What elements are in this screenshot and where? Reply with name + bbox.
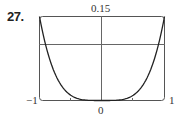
y-max-label: 0.15: [91, 2, 110, 14]
x-min-label: −1: [26, 94, 38, 106]
x-origin-label: 0: [98, 104, 104, 116]
x-max-label: 1: [169, 94, 175, 106]
